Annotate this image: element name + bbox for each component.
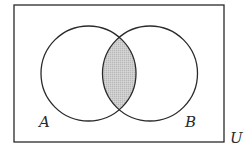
universe-label: U (230, 129, 244, 147)
set-a-label: A (37, 113, 50, 131)
set-b-label: B (184, 113, 196, 131)
venn-diagram: A B U (0, 0, 245, 149)
